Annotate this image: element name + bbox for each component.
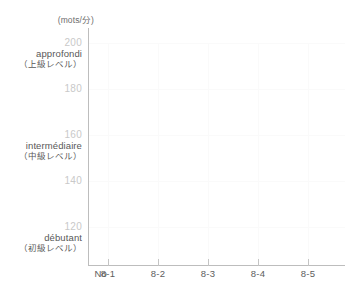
gridline-horizontal-180 [88,89,345,90]
x-tick-mark-8-3 [208,259,209,266]
gridline-vertical-8-5 [308,43,309,265]
level-annotation-approfondi: approfondi （上級レベル） [0,49,82,69]
y-tick-label-180: 180 [18,83,82,94]
reading-speed-chart: (mots/分) 200 180 160 140 120 approfondi … [0,0,361,297]
gridline-horizontal-160 [88,135,345,136]
level-annotation-intermediaire: intermédiaire （中級レベル） [0,141,82,161]
x-tick-mark-8-4 [258,259,259,266]
gridline-vertical-8-1 [108,43,109,265]
x-tick-mark-8-2 [158,259,159,266]
level-annotation-debutant-jp: （初級レベル） [0,244,82,254]
y-axis-unit-label: (mots/分) [58,13,94,25]
plot-area [88,43,345,265]
x-tick-label-8-2: 8-2 [138,268,178,279]
level-annotation-intermediaire-jp: （中級レベル） [0,152,82,162]
gridline-horizontal-200 [88,43,345,44]
level-annotation-approfondi-jp: （上級レベル） [0,60,82,70]
x-tick-label-8-5: 8-5 [288,268,328,279]
x-tick-label-8-3: 8-3 [188,268,228,279]
x-tick-label-8-1: 8-1 [88,268,128,279]
y-axis-line [88,28,89,265]
y-tick-label-160: 160 [18,129,82,140]
gridline-horizontal-140 [88,181,345,182]
y-tick-label-120: 120 [18,221,82,232]
gridline-vertical-8-2 [158,43,159,265]
y-tick-label-140: 140 [18,175,82,186]
gridline-vertical-8-4 [258,43,259,265]
x-axis-line [88,265,345,266]
x-tick-label-8-4: 8-4 [238,268,278,279]
gridline-vertical-8-3 [208,43,209,265]
level-annotation-debutant: débutant （初級レベル） [0,233,82,253]
gridline-horizontal-120 [88,227,345,228]
x-tick-mark-8-1 [108,259,109,266]
y-tick-label-200: 200 [18,37,82,48]
x-tick-mark-8-5 [308,259,309,266]
